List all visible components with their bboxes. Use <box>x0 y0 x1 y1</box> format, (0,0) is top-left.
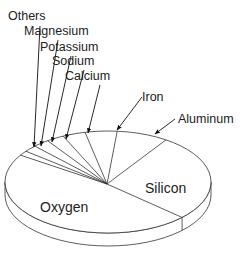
label-calcium: Calcium <box>65 69 110 83</box>
callouts: OthersMagnesiumPotassiumSodiumCalciumIro… <box>8 9 234 147</box>
pie-chart: OthersMagnesiumPotassiumSodiumCalciumIro… <box>0 0 243 258</box>
label-iron: Iron <box>142 90 164 104</box>
label-oxygen: Oxygen <box>40 199 88 215</box>
label-magnesium: Magnesium <box>24 24 89 38</box>
callout-arrow-calcium <box>88 85 100 133</box>
callout-arrow-iron <box>117 97 142 130</box>
label-sodium: Sodium <box>52 54 94 68</box>
callout-arrow-aluminum <box>155 119 175 134</box>
label-aluminum: Aluminum <box>178 112 234 126</box>
label-potassium: Potassium <box>40 40 98 54</box>
label-others: Others <box>8 9 46 23</box>
label-silicon: Silicon <box>145 180 186 196</box>
